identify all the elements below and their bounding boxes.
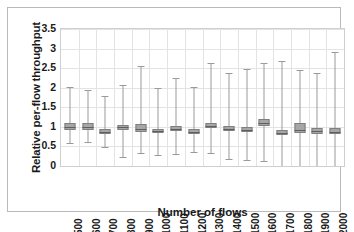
- whisker-lower: [122, 130, 123, 156]
- whisker-cap-lower: [279, 166, 286, 167]
- box-plot-item[interactable]: [79, 29, 97, 166]
- box-plot-item[interactable]: [61, 29, 79, 166]
- box-plot-item[interactable]: [326, 29, 344, 166]
- whisker-cap-lower: [261, 161, 268, 162]
- whisker-cap-lower: [66, 143, 73, 144]
- median-line: [277, 133, 288, 134]
- whisker-lower: [282, 135, 283, 166]
- box-plot-item[interactable]: [132, 29, 150, 166]
- box-plot-item[interactable]: [185, 29, 203, 166]
- whisker-cap-upper: [279, 61, 286, 62]
- y-axis-tick-labels: 00.511.522.533.5: [30, 28, 56, 167]
- y-axis-tick-label: 0.5: [30, 139, 56, 151]
- whisker-upper: [87, 90, 88, 123]
- median-line: [259, 123, 270, 124]
- whisker-cap-upper: [84, 90, 91, 91]
- whisker-cap-upper: [137, 66, 144, 67]
- median-line: [312, 131, 323, 132]
- y-axis-tick-label: 2.5: [30, 61, 56, 73]
- whisker-lower: [158, 133, 159, 155]
- box-plot-item[interactable]: [114, 29, 132, 166]
- whisker-cap-upper: [155, 88, 162, 89]
- whisker-cap-lower: [137, 153, 144, 154]
- box-plot-item[interactable]: [203, 29, 221, 166]
- whisker-lower: [229, 131, 230, 159]
- whisker-lower: [87, 130, 88, 142]
- median-line: [294, 130, 305, 131]
- whisker-upper: [299, 70, 300, 122]
- whisker-cap-upper: [261, 63, 268, 64]
- whisker-upper: [246, 69, 247, 127]
- whisker-lower: [335, 134, 336, 166]
- whisker-lower: [193, 134, 194, 152]
- whisker-cap-lower: [84, 142, 91, 143]
- median-line: [330, 132, 341, 133]
- whisker-upper: [317, 73, 318, 128]
- whisker-cap-lower: [190, 152, 197, 153]
- whisker-cap-upper: [172, 78, 179, 79]
- whisker-cap-upper: [332, 52, 339, 53]
- box-iqr: [135, 124, 146, 131]
- box-plot-item[interactable]: [273, 29, 291, 166]
- whisker-upper: [282, 61, 283, 129]
- median-line: [170, 129, 181, 130]
- whisker-lower: [317, 134, 318, 166]
- median-line: [188, 132, 199, 133]
- whisker-lower: [211, 128, 212, 153]
- whisker-cap-upper: [66, 87, 73, 88]
- box-plot-item[interactable]: [238, 29, 256, 166]
- median-line: [135, 129, 146, 130]
- median-line: [206, 126, 217, 127]
- y-axis-tick-label: 3: [30, 42, 56, 54]
- whisker-cap-upper: [226, 73, 233, 74]
- gridline-horizontal: [61, 166, 344, 167]
- median-line: [153, 131, 164, 132]
- box-iqr: [294, 123, 305, 133]
- whisker-upper: [264, 63, 265, 119]
- box-plot-item[interactable]: [220, 29, 238, 166]
- whisker-lower: [69, 130, 70, 143]
- whisker-cap-upper: [314, 73, 321, 74]
- whisker-cap-lower: [155, 155, 162, 156]
- whisker-cap-lower: [208, 153, 215, 154]
- box-plot-item[interactable]: [149, 29, 167, 166]
- whisker-upper: [158, 88, 159, 128]
- whisker-cap-lower: [332, 166, 339, 167]
- whisker-upper: [175, 78, 176, 126]
- whisker-cap-lower: [243, 160, 250, 161]
- whisker-lower: [299, 133, 300, 166]
- box-plot-item[interactable]: [256, 29, 274, 166]
- box-plot-item[interactable]: [291, 29, 309, 166]
- x-axis-tick-labels: 5006007008009001000110012001300140015001…: [60, 169, 345, 203]
- box-plot-item[interactable]: [96, 29, 114, 166]
- whisker-upper: [193, 87, 194, 130]
- whisker-upper: [69, 87, 70, 124]
- box-plot-item[interactable]: [309, 29, 327, 166]
- median-line: [64, 127, 75, 128]
- y-axis-tick-label: 1: [30, 120, 56, 132]
- median-line: [100, 132, 111, 133]
- whisker-cap-lower: [119, 157, 126, 158]
- whisker-lower: [140, 132, 141, 153]
- x-axis-title: Number of flows: [60, 206, 345, 218]
- whisker-lower: [246, 132, 247, 160]
- whisker-cap-upper: [243, 69, 250, 70]
- median-line: [241, 130, 252, 131]
- median-line: [82, 127, 93, 128]
- whisker-cap-upper: [296, 70, 303, 71]
- plot-area: [60, 28, 345, 167]
- whisker-upper: [335, 52, 336, 128]
- y-axis-tick-label: 1.5: [30, 100, 56, 112]
- whisker-cap-upper: [102, 96, 109, 97]
- whisker-upper: [229, 73, 230, 126]
- chart-frame: Relative per-flow throughput 00.511.522.…: [7, 7, 341, 212]
- whisker-cap-upper: [119, 85, 126, 86]
- whisker-upper: [105, 96, 106, 130]
- median-line: [117, 127, 128, 128]
- whisker-lower: [264, 126, 265, 161]
- whisker-cap-lower: [296, 166, 303, 167]
- y-axis-tick-label: 2: [30, 81, 56, 93]
- box-plot-item[interactable]: [167, 29, 185, 166]
- whisker-upper: [211, 63, 212, 123]
- whisker-lower: [175, 131, 176, 154]
